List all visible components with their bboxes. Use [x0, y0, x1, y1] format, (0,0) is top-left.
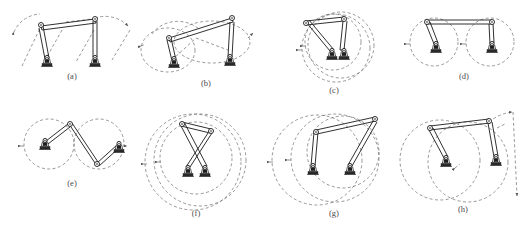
panel-e-label: (e) — [67, 178, 77, 188]
joint-upper-left — [180, 122, 185, 127]
robot-configurations-diagram: (a) (b) — [0, 0, 531, 233]
joint-upper-right — [490, 20, 495, 25]
joint-upper-right — [230, 16, 235, 21]
panel-g-label: (g) — [329, 208, 339, 218]
joint-upper-left — [304, 21, 309, 26]
panel-f-label: (f) — [192, 208, 201, 218]
joint-valley — [95, 162, 100, 167]
joint-upper-right — [93, 17, 98, 22]
panel-a-label: (a) — [67, 71, 77, 81]
panel-d-label: (d) — [459, 71, 469, 81]
figure-panel-grid: (a) (b) — [0, 0, 531, 233]
joint-upper-right — [209, 129, 214, 134]
joint-upper-right — [373, 117, 378, 122]
joint-upper-right — [487, 119, 492, 124]
joint-upper-left — [167, 36, 172, 41]
joint-upper-left — [425, 20, 430, 25]
joint-peak — [68, 122, 73, 127]
joint-upper-left — [39, 23, 44, 28]
joint-upper-right — [342, 17, 347, 22]
panel-b-label: (b) — [201, 78, 211, 88]
panel-h-label: (h) — [458, 204, 468, 214]
joint-upper-left — [428, 126, 433, 131]
joint-upper-left — [314, 130, 319, 135]
panel-c-label: (c) — [329, 85, 339, 95]
